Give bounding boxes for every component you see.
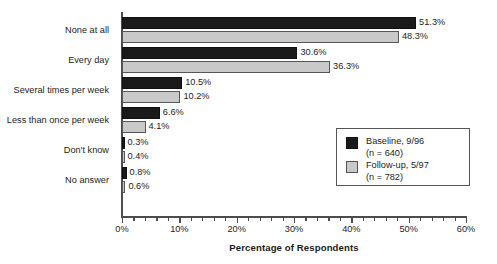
x-tick-major [351, 217, 352, 223]
x-tick-minor [443, 217, 444, 221]
x-tick-label: 30% [285, 225, 303, 234]
legend-item-baseline: Baseline, 9/96 (n = 640) [346, 136, 424, 159]
bar-followup: 4.1% [122, 121, 146, 133]
x-tick-minor [283, 217, 284, 221]
bar-value-label: 4.1% [149, 122, 170, 131]
x-tick-minor [455, 217, 456, 221]
x-tick-minor [225, 217, 226, 221]
x-tick-major [122, 217, 123, 223]
category-label: Less than once per week [7, 116, 109, 125]
bar-followup: 36.3% [122, 61, 330, 73]
bar-followup: 48.3% [122, 31, 399, 43]
legend-label-baseline-n: (n = 640) [366, 148, 403, 158]
x-tick-label: 40% [342, 225, 360, 234]
legend-swatch-followup-icon [346, 161, 358, 173]
x-tick-minor [317, 217, 318, 221]
x-tick-minor [328, 217, 329, 221]
x-tick-minor [133, 217, 134, 221]
x-tick-minor [168, 217, 169, 221]
bar-followup: 10.2% [122, 91, 180, 103]
category-label: Don't know [64, 146, 109, 155]
x-tick-major [179, 217, 180, 223]
bar-baseline: 30.6% [122, 47, 297, 59]
bar-followup: 0.6% [122, 181, 125, 193]
x-tick-minor [386, 217, 387, 221]
x-tick-label: 50% [399, 225, 417, 234]
x-tick-minor [305, 217, 306, 221]
x-tick-major [237, 217, 238, 223]
bar-chart: None at all51.3%48.3%Every day30.6%36.3%… [0, 0, 497, 264]
legend-label-followup: Follow-up, 5/97 (n = 782) [366, 160, 429, 183]
category-label: No answer [65, 176, 109, 185]
bar-baseline: 0.3% [122, 137, 125, 149]
bar-value-label: 0.6% [128, 182, 149, 191]
legend: Baseline, 9/96 (n = 640) Follow-up, 5/97… [336, 128, 470, 186]
x-tick-label: 20% [227, 225, 245, 234]
legend-label-baseline: Baseline, 9/96 (n = 640) [366, 136, 424, 159]
x-tick-major [466, 217, 467, 223]
x-tick-label: 60% [457, 225, 475, 234]
bar-group: Several times per week10.5%10.2% [122, 76, 466, 106]
x-tick-minor [202, 217, 203, 221]
x-tick-minor [260, 217, 261, 221]
x-axis-title: Percentage of Respondents [122, 242, 466, 253]
x-tick-minor [374, 217, 375, 221]
x-tick-minor [397, 217, 398, 221]
legend-label-followup-name: Follow-up, 5/97 [366, 160, 429, 170]
bar-value-label: 10.2% [183, 92, 209, 101]
x-tick-minor [271, 217, 272, 221]
x-tick-minor [214, 217, 215, 221]
bar-baseline: 10.5% [122, 77, 182, 89]
category-label: None at all [65, 26, 109, 35]
x-tick-minor [363, 217, 364, 221]
category-label: Every day [68, 56, 109, 65]
bar-baseline: 6.6% [122, 107, 160, 119]
bar-value-label: 10.5% [185, 78, 211, 87]
legend-swatch-baseline-icon [346, 137, 358, 149]
bar-group: Every day30.6%36.3% [122, 46, 466, 76]
legend-label-followup-n: (n = 782) [366, 172, 403, 182]
x-axis-ticks: 0%10%20%30%40%50%60% [122, 217, 466, 241]
bar-value-label: 6.6% [163, 108, 184, 117]
bar-followup: 0.4% [122, 151, 125, 163]
legend-item-followup: Follow-up, 5/97 (n = 782) [346, 160, 429, 183]
bar-value-label: 0.8% [130, 168, 151, 177]
x-tick-minor [191, 217, 192, 221]
bar-value-label: 48.3% [402, 32, 428, 41]
x-tick-label: 0% [115, 225, 128, 234]
x-tick-minor [248, 217, 249, 221]
x-tick-major [294, 217, 295, 223]
bar-value-label: 36.3% [333, 62, 359, 71]
bar-group: None at all51.3%48.3% [122, 16, 466, 46]
x-tick-label: 10% [170, 225, 188, 234]
category-label: Several times per week [14, 86, 110, 95]
x-tick-major [409, 217, 410, 223]
x-tick-minor [420, 217, 421, 221]
bar-value-label: 0.3% [128, 138, 149, 147]
x-tick-minor [432, 217, 433, 221]
bar-value-label: 51.3% [419, 18, 445, 27]
x-tick-minor [156, 217, 157, 221]
legend-label-baseline-name: Baseline, 9/96 [366, 136, 424, 146]
bar-value-label: 0.4% [128, 152, 149, 161]
bar-baseline: 0.8% [122, 167, 127, 179]
bar-baseline: 51.3% [122, 17, 416, 29]
bar-value-label: 30.6% [300, 48, 326, 57]
x-tick-minor [340, 217, 341, 221]
x-tick-minor [145, 217, 146, 221]
